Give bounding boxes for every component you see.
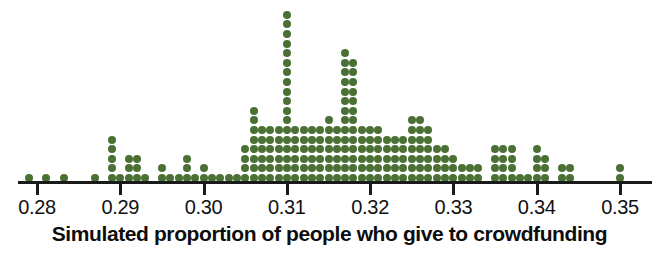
data-dot	[408, 155, 416, 163]
data-dot	[349, 116, 357, 124]
data-dot	[408, 164, 416, 172]
x-axis-tick	[119, 184, 122, 195]
data-dot	[399, 145, 407, 153]
data-dot	[300, 126, 308, 134]
data-dot	[391, 164, 399, 172]
data-dot	[316, 155, 324, 163]
x-axis-line	[18, 181, 652, 184]
data-dot	[474, 164, 482, 172]
data-dot	[283, 97, 291, 105]
data-dot	[416, 155, 424, 163]
data-dot	[250, 116, 258, 124]
data-dot	[250, 155, 258, 163]
x-axis-tick	[36, 184, 39, 195]
data-dot	[108, 145, 116, 153]
data-dot	[183, 164, 191, 172]
data-dot	[108, 155, 116, 163]
data-dot	[333, 155, 341, 163]
data-dot	[533, 164, 541, 172]
data-dot	[358, 136, 366, 144]
data-dot	[308, 136, 316, 144]
data-dot	[374, 145, 382, 153]
data-dot	[341, 68, 349, 76]
data-dot	[308, 126, 316, 134]
data-dot	[341, 107, 349, 115]
data-dot	[416, 116, 424, 124]
data-dot	[300, 155, 308, 163]
data-dot	[283, 49, 291, 57]
data-dot	[358, 145, 366, 153]
data-dot	[433, 145, 441, 153]
data-dot	[283, 68, 291, 76]
data-dot	[258, 155, 266, 163]
data-dot	[133, 164, 141, 172]
data-dot	[266, 164, 274, 172]
data-dot	[325, 164, 333, 172]
data-dot	[291, 145, 299, 153]
data-dot	[449, 155, 457, 163]
data-dot	[283, 59, 291, 67]
x-axis-tick-label: 0.31	[257, 196, 317, 219]
data-dot	[491, 155, 499, 163]
data-dot	[283, 107, 291, 115]
data-dot	[241, 164, 249, 172]
data-dot	[416, 164, 424, 172]
data-dot	[433, 155, 441, 163]
data-dot	[349, 126, 357, 134]
data-dot	[374, 164, 382, 172]
data-dot	[275, 164, 283, 172]
x-axis-tick-label: 0.30	[174, 196, 234, 219]
data-dot	[341, 126, 349, 134]
x-axis-tick	[369, 184, 372, 195]
data-dot	[158, 164, 166, 172]
x-axis-tick-label: 0.32	[340, 196, 400, 219]
data-dot	[399, 136, 407, 144]
data-dot	[316, 164, 324, 172]
data-dot	[349, 88, 357, 96]
data-dot	[316, 126, 324, 134]
data-dot	[349, 59, 357, 67]
data-dot	[291, 126, 299, 134]
data-dot	[275, 136, 283, 144]
data-dot	[250, 164, 258, 172]
data-dot	[308, 145, 316, 153]
data-dot	[499, 155, 507, 163]
x-axis-tick	[203, 184, 206, 195]
data-dot	[283, 155, 291, 163]
data-dot	[533, 145, 541, 153]
data-dot	[325, 126, 333, 134]
data-dot	[441, 145, 449, 153]
data-dot	[291, 164, 299, 172]
data-dot	[325, 145, 333, 153]
data-dot	[441, 155, 449, 163]
data-dot	[125, 155, 133, 163]
data-dot	[366, 136, 374, 144]
data-dot	[374, 126, 382, 134]
data-dot	[200, 164, 208, 172]
data-dot	[391, 155, 399, 163]
data-dot	[308, 164, 316, 172]
data-dot	[416, 126, 424, 134]
data-dot	[383, 136, 391, 144]
data-dot	[508, 155, 516, 163]
data-dot	[283, 11, 291, 19]
data-dot	[566, 164, 574, 172]
x-axis-tick-label: 0.33	[423, 196, 483, 219]
data-dot	[541, 155, 549, 163]
data-dot	[366, 126, 374, 134]
data-dot	[433, 164, 441, 172]
data-dot	[358, 155, 366, 163]
data-dot	[250, 145, 258, 153]
x-axis-tick	[619, 184, 622, 195]
data-dot	[349, 68, 357, 76]
data-dot	[300, 136, 308, 144]
data-dot	[441, 164, 449, 172]
data-dot	[349, 145, 357, 153]
data-dot	[466, 164, 474, 172]
data-dot	[341, 97, 349, 105]
data-dot	[399, 155, 407, 163]
data-dot	[108, 136, 116, 144]
data-dot	[125, 164, 133, 172]
data-dot	[241, 145, 249, 153]
data-dot	[325, 136, 333, 144]
